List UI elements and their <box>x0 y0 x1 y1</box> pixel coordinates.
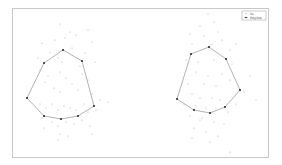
scatter-point <box>45 82 46 83</box>
scatter-point <box>208 76 209 77</box>
scatter-point <box>232 64 233 65</box>
scatter-point <box>44 128 45 129</box>
scatter-point <box>46 108 47 109</box>
scatter-point <box>42 118 43 119</box>
hull-vertex <box>193 109 195 111</box>
scatter-point <box>230 80 231 81</box>
scatter-point <box>78 90 79 91</box>
scatter-point <box>92 94 93 95</box>
legend: Xs Polyline <box>242 11 266 20</box>
scatter-point <box>200 120 201 121</box>
scatter-point <box>52 104 53 105</box>
scatter-point <box>74 124 75 125</box>
scatter-point <box>220 100 221 101</box>
chart-plot: Xs Polyline <box>0 0 282 165</box>
scatter-point <box>66 122 67 123</box>
scatter-point <box>216 86 217 87</box>
scatter-point <box>95 62 96 63</box>
scatter-point <box>76 110 77 111</box>
scatter-point <box>244 92 245 93</box>
scatter-point <box>42 43 43 44</box>
scatter-point <box>68 136 69 137</box>
scatter-point <box>208 14 209 15</box>
scatter-point <box>216 108 217 109</box>
scatter-point <box>204 36 205 37</box>
scatter-point <box>92 134 93 135</box>
scatter-point <box>206 132 207 133</box>
scatter-point <box>66 78 67 79</box>
scatter-point <box>190 34 191 35</box>
scatter-point <box>65 38 66 39</box>
scatter-points <box>38 14 257 153</box>
scatter-point <box>60 92 61 93</box>
scatter-point <box>60 72 61 73</box>
hull-vertex <box>81 60 83 62</box>
scatter-point <box>214 22 215 23</box>
scatter-point <box>52 122 53 123</box>
scatter-point <box>204 84 205 85</box>
scatter-point <box>64 106 65 107</box>
scatter-point <box>72 48 73 49</box>
hull-vertex <box>208 46 210 48</box>
legend-scatter-marker <box>245 13 246 14</box>
scatter-point <box>188 84 189 85</box>
hull-vertex <box>77 115 79 117</box>
hull-vertex <box>209 112 211 114</box>
scatter-point <box>222 74 223 75</box>
scatter-point <box>200 98 201 99</box>
scatter-point <box>214 60 215 61</box>
scatter-point <box>88 30 89 31</box>
scatter-point <box>54 88 55 89</box>
scatter-point <box>200 26 201 27</box>
hull-vertex <box>176 98 178 100</box>
scatter-point <box>90 126 91 127</box>
scatter-point <box>236 44 237 45</box>
scatter-point <box>210 142 211 143</box>
hull-vertex <box>62 49 64 51</box>
scatter-point <box>222 40 223 41</box>
scatter-point <box>198 62 199 63</box>
scatter-point <box>224 124 225 125</box>
scatter-point <box>202 118 203 119</box>
hull-vertex <box>225 58 227 60</box>
scatter-point <box>212 44 213 45</box>
scatter-point <box>96 110 97 111</box>
hull-vertex <box>239 89 241 91</box>
scatter-point <box>212 98 213 99</box>
scatter-point <box>250 76 251 77</box>
scatter-point <box>236 104 237 105</box>
scatter-point <box>88 80 89 81</box>
scatter-point <box>230 50 231 51</box>
scatter-point <box>70 108 71 109</box>
scatter-point <box>55 40 56 41</box>
scatter-point <box>192 138 193 139</box>
scatter-point <box>72 84 73 85</box>
hull-vertex <box>190 53 192 55</box>
plot-frame <box>13 9 269 158</box>
scatter-point <box>50 52 51 53</box>
scatter-point <box>58 126 59 127</box>
hull-vertex <box>26 97 28 99</box>
legend-vertex-marker <box>245 17 247 19</box>
scatter-point <box>218 136 219 137</box>
scatter-point <box>214 122 215 123</box>
scatter-point <box>70 32 71 33</box>
scatter-point <box>38 58 39 59</box>
hull-vertex <box>60 118 62 120</box>
scatter-point <box>58 140 59 141</box>
hull-vertex <box>224 106 226 108</box>
hull-polygons <box>26 46 241 120</box>
scatter-point <box>186 60 187 61</box>
scatter-point <box>40 104 41 105</box>
scatter-point <box>190 116 191 117</box>
scatter-point <box>85 53 86 54</box>
scatter-point <box>84 104 85 105</box>
hull-polygon <box>27 50 94 119</box>
scatter-point <box>82 74 83 75</box>
scatter-point <box>206 108 207 109</box>
hull-vertex <box>43 62 45 64</box>
hull-polygon <box>177 47 240 113</box>
scatter-point <box>92 42 93 43</box>
scatter-point <box>108 102 109 103</box>
scatter-point <box>58 58 59 59</box>
